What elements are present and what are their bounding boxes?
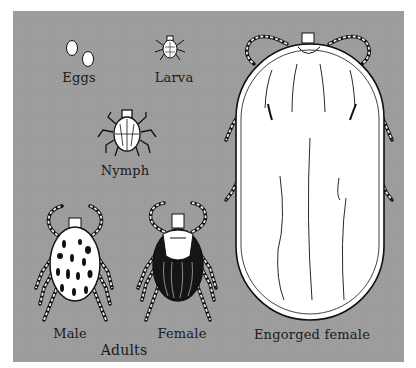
engorged-female-label: Engorged female (254, 327, 370, 342)
female-tick-icon (138, 203, 216, 320)
eggs-label: Eggs (62, 70, 96, 85)
female-label: Female (157, 326, 206, 341)
nymph-label: Nymph (101, 163, 150, 178)
nymph-icon (98, 110, 156, 156)
larva-label: Larva (155, 70, 194, 85)
male-tick-icon (36, 206, 112, 320)
eggs-icon (67, 41, 94, 67)
engorged-female-tick-icon (226, 33, 392, 320)
adults-group-label: Adults (101, 342, 148, 358)
tick-illustration (0, 0, 416, 368)
male-label: Male (53, 326, 87, 341)
larva-icon (155, 36, 185, 60)
